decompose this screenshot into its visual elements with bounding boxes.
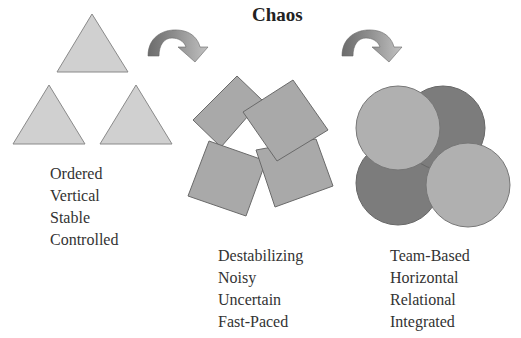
integrated-stage-labels: Team-Based Horizontal Relational Integra…: [390, 245, 470, 333]
chaos-stage-labels: Destabilizing Noisy Uncertain Fast-Paced: [218, 245, 303, 333]
label-item: Uncertain: [218, 289, 303, 311]
square-bottom-left: [188, 141, 266, 216]
curved-arrow-icon: [148, 30, 208, 62]
label-item: Team-Based: [390, 245, 470, 267]
label-item: Noisy: [218, 267, 303, 289]
triangle-top: [57, 14, 128, 72]
label-item: Ordered: [50, 163, 118, 185]
label-item: Vertical: [50, 185, 118, 207]
circle-bottom-right: [426, 143, 510, 227]
label-item: Destabilizing: [218, 245, 303, 267]
label-item: Fast-Paced: [218, 311, 303, 333]
triangle-bottom-left: [13, 85, 85, 144]
label-item: Controlled: [50, 229, 118, 251]
label-item: Integrated: [390, 311, 470, 333]
label-item: Stable: [50, 207, 118, 229]
circles-group: [356, 86, 510, 227]
label-item: Horizontal: [390, 267, 470, 289]
triangles-group: [13, 14, 172, 144]
ordered-stage-labels: Ordered Vertical Stable Controlled: [50, 163, 118, 251]
curved-arrow-icon: [342, 30, 402, 62]
label-item: Relational: [390, 289, 470, 311]
circle-top-left: [356, 86, 440, 170]
triangle-bottom-right: [100, 85, 172, 144]
squares-group: [188, 76, 333, 216]
